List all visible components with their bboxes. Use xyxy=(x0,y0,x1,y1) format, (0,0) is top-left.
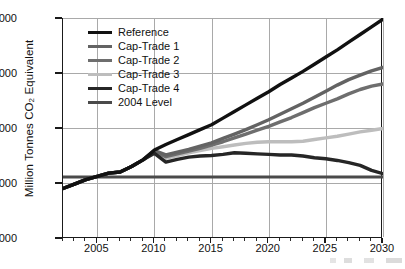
gridline-vertical xyxy=(383,18,384,237)
y-axis-title-prefix: Million Tonnes CO xyxy=(23,102,35,197)
legend-label: Cap-Trade 4 xyxy=(118,82,179,95)
legend-swatch-icon xyxy=(88,87,112,90)
legend-label: Cap-Trade 2 xyxy=(118,54,179,67)
legend-swatch-icon xyxy=(88,101,112,104)
y-tick-label: 8,000 xyxy=(0,122,17,134)
legend-label: Reference xyxy=(118,26,169,39)
x-tick-label: 2020 xyxy=(245,242,291,254)
y-axis-title: Million Tonnes CO2 Equivalent xyxy=(23,14,36,224)
x-tick-minor xyxy=(73,238,74,241)
legend-item[interactable]: Cap-Trade 4 xyxy=(88,82,179,95)
x-tick-mark xyxy=(381,238,382,243)
y-tick-mark xyxy=(55,127,62,128)
x-tick-minor xyxy=(176,238,177,241)
y-axis-title-subscript: 2 xyxy=(27,98,36,103)
legend-label: Cap-Trade 3 xyxy=(118,68,179,81)
x-tick-minor xyxy=(370,238,371,241)
y-tick-mark xyxy=(55,17,62,18)
x-tick-minor xyxy=(164,238,165,241)
legend-item[interactable]: 2004 Level xyxy=(88,96,179,109)
x-tick-label: 2010 xyxy=(130,242,176,254)
legend-item[interactable]: Cap-Trade 3 xyxy=(88,68,179,81)
y-tick-label: 10,000 xyxy=(0,12,17,24)
x-tick-minor xyxy=(244,238,245,241)
x-tick-mark xyxy=(324,238,325,243)
x-tick-minor xyxy=(62,238,63,241)
y-tick-mark xyxy=(55,182,62,183)
x-tick-minor xyxy=(142,238,143,241)
x-tick-label: 2015 xyxy=(188,242,234,254)
x-tick-mark xyxy=(96,238,97,243)
legend-item[interactable]: Cap-Trade 1 xyxy=(88,40,179,53)
x-tick-minor xyxy=(107,238,108,241)
y-tick-label: 7,000 xyxy=(0,177,17,189)
x-tick-minor xyxy=(84,238,85,241)
legend-swatch-icon xyxy=(88,73,112,76)
legend-item[interactable]: Reference xyxy=(88,26,179,39)
x-tick-minor xyxy=(302,238,303,241)
x-tick-mark xyxy=(210,238,211,243)
x-tick-mark xyxy=(153,238,154,243)
x-tick-label: 2025 xyxy=(302,242,348,254)
x-tick-minor xyxy=(336,238,337,241)
legend-item[interactable]: Cap-Trade 2 xyxy=(88,54,179,67)
legend-swatch-icon xyxy=(88,59,112,62)
x-tick-label: 2030 xyxy=(359,242,405,254)
x-tick-minor xyxy=(130,238,131,241)
y-axis-title-suffix: Equivalent xyxy=(23,40,35,98)
x-tick-minor xyxy=(279,238,280,241)
y-tick-mark xyxy=(55,72,62,73)
x-tick-minor xyxy=(290,238,291,241)
x-tick-minor xyxy=(222,238,223,241)
x-tick-minor xyxy=(256,238,257,241)
x-tick-minor xyxy=(119,238,120,241)
x-tick-minor xyxy=(359,238,360,241)
x-tick-minor xyxy=(187,238,188,241)
chart-legend: ReferenceCap-Trade 1Cap-Trade 2Cap-Trade… xyxy=(88,26,179,109)
x-tick-minor xyxy=(233,238,234,241)
series-line xyxy=(63,153,383,189)
legend-label: 2004 Level xyxy=(118,96,172,109)
x-tick-minor xyxy=(347,238,348,241)
scan-artifact xyxy=(330,258,402,263)
x-tick-minor xyxy=(199,238,200,241)
x-tick-minor xyxy=(313,238,314,241)
y-tick-label: 6,000 xyxy=(0,232,17,244)
y-tick-label: 9,000 xyxy=(0,67,17,79)
chart-figure: Million Tonnes CO2 Equivalent 6,0007,000… xyxy=(0,0,405,269)
x-tick-mark xyxy=(267,238,268,243)
legend-swatch-icon xyxy=(88,31,112,34)
legend-label: Cap-Trade 1 xyxy=(118,40,179,53)
x-tick-label: 2005 xyxy=(73,242,119,254)
legend-swatch-icon xyxy=(88,45,112,48)
